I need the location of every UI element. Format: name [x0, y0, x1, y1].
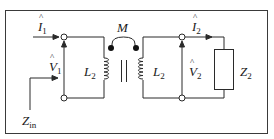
label-l-primary-sub: 2 — [91, 71, 96, 81]
terminal-secondary-bottom — [179, 95, 185, 101]
label-v1-sub: 1 — [57, 66, 62, 76]
primary-inductor — [104, 58, 109, 79]
voltage-v1-arrow — [62, 41, 67, 95]
label-i1: I1 — [38, 20, 47, 36]
label-v1-main: V — [49, 60, 57, 73]
label-i1-main: I — [38, 20, 42, 33]
label-v1: V1 — [49, 60, 61, 76]
label-l-secondary-sub: 2 — [160, 71, 165, 81]
label-v2-sub: 2 — [197, 71, 202, 81]
transformer-core — [122, 60, 127, 82]
terminal-primary-top — [61, 34, 67, 40]
label-zin: Zin — [22, 114, 36, 130]
label-l-secondary: L2 — [153, 65, 165, 81]
label-i2-sub: 2 — [196, 26, 201, 36]
label-i2-main: I — [192, 20, 196, 33]
load-impedance-z2 — [215, 50, 234, 90]
current-i2-arrowhead — [206, 35, 212, 40]
mutual-inductance-arc — [112, 37, 135, 48]
terminal-secondary-top — [179, 34, 185, 40]
label-zin-sub: in — [29, 120, 36, 130]
secondary-inductor — [139, 58, 144, 79]
label-i1-sub: 1 — [42, 26, 47, 36]
label-z2-sub: 2 — [247, 71, 252, 81]
polarity-dot-primary — [108, 45, 114, 51]
polarity-dot-secondary — [133, 45, 139, 51]
label-m: M — [117, 21, 128, 34]
label-z2: Z2 — [240, 65, 252, 81]
label-i2: I2 — [192, 20, 201, 36]
label-l-primary: L2 — [84, 65, 96, 81]
voltage-v2-arrow — [180, 41, 185, 95]
terminal-primary-bottom — [61, 95, 67, 101]
circuit-diagram: I1 M I2 V1 L2 L2 V2 Z2 Zin — [0, 0, 274, 139]
zin-arrow — [30, 76, 58, 111]
label-v2-main: V — [189, 65, 197, 78]
label-v2: V2 — [189, 65, 201, 81]
